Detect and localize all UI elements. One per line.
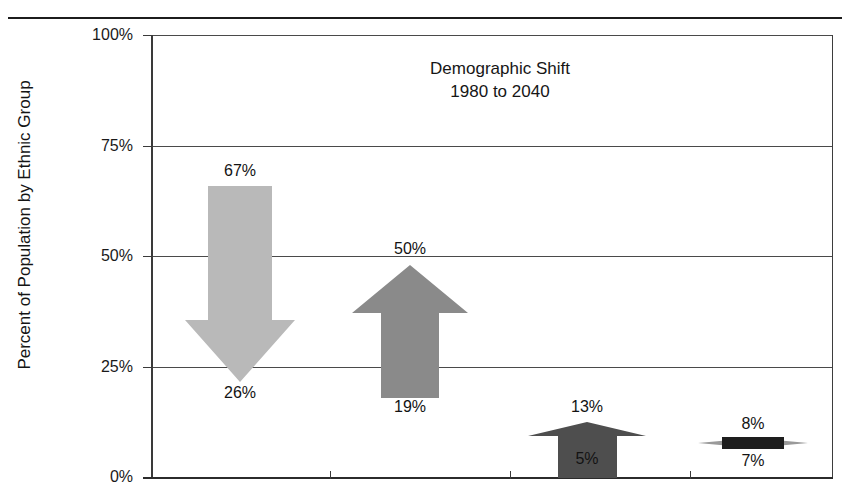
arrow-4-end-label: 8% [683,415,823,433]
plot-right-border [832,35,833,478]
arrow-flat-group-4 [698,437,808,449]
arrow-up-group-2 [352,265,468,398]
x-tick-mark-3 [690,471,691,479]
y-tick-label-0: 0% [43,468,133,486]
arrow-2-start-label: 19% [340,398,480,416]
chart-title: Demographic Shift [300,57,700,80]
arrow-1-end-label: 26% [170,384,310,402]
chart-subtitle: 1980 to 2040 [300,80,700,103]
top-horizontal-rule [8,17,842,19]
y-tick-label-25: 25% [43,358,133,376]
flat-arrow-icon [698,437,808,449]
x-tick-mark-2 [510,471,511,479]
down-arrow-icon [185,186,295,382]
chart-title-block: Demographic Shift 1980 to 2040 [300,57,700,103]
gridline-100 [151,35,833,36]
chart-page: Percent of Population by Ethnic Group 10… [0,0,842,487]
up-arrow-icon [352,265,468,398]
top-caption [120,0,760,8]
x-tick-mark-1 [330,471,331,479]
y-tick-label-50: 50% [43,247,133,265]
arrow-down-group-1 [185,186,295,382]
y-tick-label-75: 75% [43,137,133,155]
y-axis-title: Percent of Population by Ethnic Group [15,25,35,425]
y-tick-label-100: 100% [43,26,133,44]
y-axis-line [151,35,153,478]
arrow-2-end-label: 50% [340,240,480,258]
arrow-3-start-label: 5% [517,450,657,468]
arrow-3-end-label: 13% [517,398,657,416]
x-axis-line [143,477,833,479]
gridline-75 [151,146,833,147]
arrow-4-start-label: 7% [683,452,823,470]
arrow-1-start-label: 67% [170,162,310,180]
